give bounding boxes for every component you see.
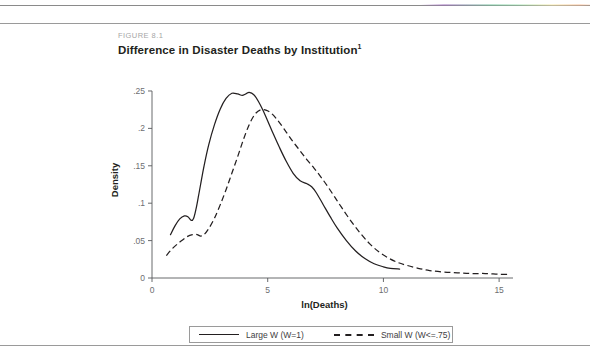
figure-title-text: Difference in Disaster Deaths by Institu… [118,44,358,56]
series-line-small-w [166,109,508,274]
figure-title-footnote-marker: 1 [358,43,362,50]
legend-item-small-w: Small W (W<=.75) [334,327,450,342]
chart-legend: Large W (W=1) Small W (W<=.75) [189,326,453,343]
x-axis-title: ln(Deaths) [301,299,347,310]
legend-swatch-dashed [334,334,374,336]
chart-svg: 0.05.1.15.2.25 051015 ln(Deaths)Density [0,60,590,320]
y-axis-title: Density [109,162,120,197]
x-axis-tick-label: 5 [265,285,270,295]
y-axis-tick-label: 0 [140,273,145,283]
legend-label-small-w: Small W (W<=.75) [381,330,450,340]
legend-label-large-w: Large W (W=1) [246,330,304,340]
density-chart: 0.05.1.15.2.25 051015 ln(Deaths)Density [0,60,590,320]
bottom-rule [0,345,590,346]
x-axis-tick-label: 10 [379,285,389,295]
y-axis-tick-label: .1 [138,198,145,208]
y-axis-tick-label: .15 [133,161,145,171]
series-line-large-w [171,92,400,269]
legend-item-large-w: Large W (W=1) [199,327,304,342]
top-rule-secondary [0,23,590,24]
y-axis-tick-label: .25 [133,86,145,96]
y-axis-tick-label: .2 [138,123,145,133]
top-rule-chromatic-fringe [420,4,590,6]
y-axis: 0.05.1.15.2.25 [133,86,152,283]
x-axis: 051015 [150,278,513,295]
figure-title: Difference in Disaster Deaths by Institu… [118,43,362,56]
x-axis-tick-label: 0 [150,285,155,295]
y-axis-tick-label: .05 [133,236,145,246]
figure-number-label: FIGURE 8.1 [118,31,163,40]
chart-series-group [166,92,508,274]
legend-swatch-solid [199,334,239,335]
x-axis-tick-label: 15 [494,285,504,295]
figure-page: FIGURE 8.1 Difference in Disaster Deaths… [0,0,590,355]
